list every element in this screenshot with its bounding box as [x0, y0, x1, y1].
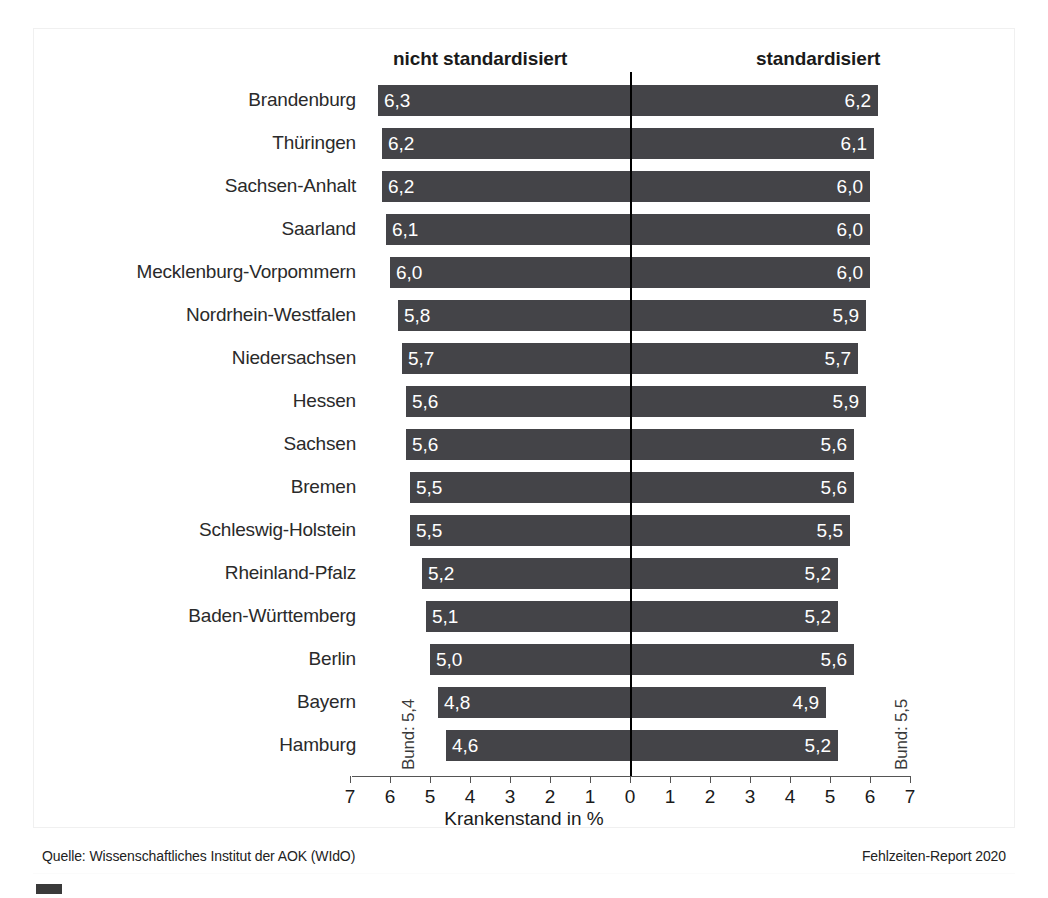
x-axis-line [352, 776, 910, 777]
source-note: Quelle: Wissenschaftliches Institut der … [42, 848, 355, 864]
x-axis-title: Krankenstand in % [0, 808, 1048, 830]
caption-marker [36, 884, 62, 894]
bottom-rule [33, 873, 1015, 874]
bund-reference-label-left: Bund: 5,4 [399, 699, 419, 770]
zero-axis-line [630, 72, 632, 776]
report-note: Fehlzeiten-Report 2020 [862, 848, 1006, 864]
bund-reference-label-right: Bund: 5,5 [892, 699, 912, 770]
figure-frame [33, 28, 1015, 828]
column-header-standardisiert: standardisiert [756, 48, 880, 70]
column-header-nicht-standardisiert: nicht standardisiert [393, 48, 567, 70]
